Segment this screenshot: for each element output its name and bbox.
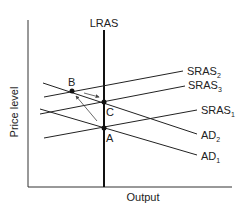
point-c-label: C (106, 106, 114, 118)
arrow-b-to-c (84, 93, 99, 97)
lras-label: LRAS (90, 17, 119, 29)
sras1-label: SRAS1 (201, 104, 235, 118)
y-axis-label: Price level (8, 87, 20, 138)
point-b (70, 89, 75, 94)
sras2-label: SRAS2 (187, 65, 221, 79)
sras2-line (44, 71, 183, 97)
sras3-label: SRAS3 (188, 79, 222, 93)
point-b-label: B (68, 76, 75, 88)
point-c (102, 100, 107, 105)
sras1-line (44, 110, 197, 138)
x-axis-label: Output (126, 191, 159, 203)
point-a (102, 126, 107, 131)
ad1-label: AD1 (201, 150, 220, 164)
point-a-label: A (106, 132, 114, 144)
ad2-label: AD2 (201, 129, 220, 143)
as-ad-diagram: Price level Output LRAS SRAS2 SRAS3 SRAS… (0, 0, 245, 214)
ad1-line (40, 109, 197, 155)
